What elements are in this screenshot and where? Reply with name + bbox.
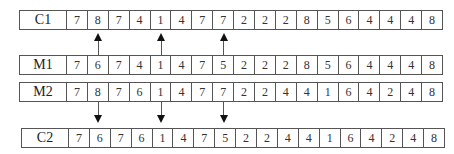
- gene-cell: 4: [171, 55, 192, 75]
- chromosome-row-m1: M1767414752228564448: [19, 55, 443, 75]
- gene-cell: 6: [341, 128, 362, 148]
- gene-cell: 7: [192, 82, 213, 102]
- gene-cell: 4: [276, 82, 297, 102]
- gene-cell: 7: [67, 10, 88, 30]
- gene-cell: 4: [403, 128, 424, 148]
- chromosome-row-m2: M2787614772244164248: [19, 82, 443, 102]
- gene-cell: 5: [215, 128, 236, 148]
- gene-cell: 4: [401, 10, 422, 30]
- gene-cell: 8: [297, 10, 318, 30]
- gene-cell: 4: [401, 55, 422, 75]
- gene-cell: 5: [213, 55, 234, 75]
- gene-cell: 8: [88, 82, 109, 102]
- gene-cell: 7: [192, 10, 213, 30]
- gene-cell: 2: [234, 10, 255, 30]
- gene-cell: 7: [213, 82, 234, 102]
- arrow-up-icon: [94, 33, 102, 41]
- gene-cell: 2: [234, 55, 255, 75]
- gene-cell: 6: [132, 128, 153, 148]
- row-label: C2: [21, 128, 69, 148]
- gene-cell: 6: [339, 82, 360, 102]
- gene-cell: 4: [171, 82, 192, 102]
- gene-cell: 2: [234, 82, 255, 102]
- gene-cell: 6: [88, 55, 109, 75]
- gene-cell: 5: [318, 55, 339, 75]
- down-arrow-line: [161, 102, 162, 116]
- gene-cell: 1: [151, 82, 172, 102]
- gene-cell: 2: [257, 128, 278, 148]
- gene-cell: 6: [90, 128, 111, 148]
- arrow-up-icon: [220, 33, 228, 41]
- gene-cell: 4: [380, 10, 401, 30]
- gene-cell: 8: [88, 10, 109, 30]
- arrow-down-icon: [157, 115, 165, 123]
- gene-cell: 7: [67, 55, 88, 75]
- gene-cell: 1: [318, 82, 339, 102]
- arrow-up-icon: [157, 33, 165, 41]
- gene-cell: 7: [69, 128, 90, 148]
- gene-cell: 4: [173, 128, 194, 148]
- gene-cell: 4: [130, 10, 151, 30]
- gene-cell: 1: [153, 128, 174, 148]
- gene-cell: 2: [255, 82, 276, 102]
- gene-cell: 2: [236, 128, 257, 148]
- down-arrow-line: [98, 102, 99, 116]
- up-arrow-line: [161, 40, 162, 55]
- gene-cell: 4: [299, 128, 320, 148]
- gene-cell: 8: [422, 10, 443, 30]
- gene-cell: 4: [359, 10, 380, 30]
- gene-cell: 2: [276, 10, 297, 30]
- gene-cell: 2: [255, 10, 276, 30]
- gene-cell: 4: [171, 10, 192, 30]
- arrow-down-icon: [94, 115, 102, 123]
- gene-cell: 1: [151, 10, 172, 30]
- gene-cell: 7: [213, 10, 234, 30]
- row-label: M2: [19, 82, 67, 102]
- gene-cell: 6: [339, 55, 360, 75]
- gene-cell: 4: [380, 55, 401, 75]
- gene-cell: 8: [424, 128, 445, 148]
- gene-cell: 4: [359, 55, 380, 75]
- gene-cell: 6: [130, 82, 151, 102]
- gene-cell: 2: [276, 55, 297, 75]
- gene-cell: 4: [297, 82, 318, 102]
- arrow-down-icon: [220, 115, 228, 123]
- gene-cell: 7: [109, 10, 130, 30]
- down-arrow-line: [223, 102, 224, 116]
- gene-cell: 1: [151, 55, 172, 75]
- gene-cell: 8: [422, 82, 443, 102]
- gene-cell: 6: [339, 10, 360, 30]
- gene-cell: 7: [111, 128, 132, 148]
- gene-cell: 7: [192, 55, 213, 75]
- gene-cell: 7: [67, 82, 88, 102]
- gene-cell: 8: [422, 55, 443, 75]
- gene-cell: 4: [359, 82, 380, 102]
- gene-cell: 4: [361, 128, 382, 148]
- gene-cell: 4: [401, 82, 422, 102]
- gene-cell: 1: [320, 128, 341, 148]
- chromosome-row-c2: C2767614752244164248: [21, 128, 445, 148]
- chromosome-row-c1: C1787414772228564448: [19, 10, 443, 30]
- gene-cell: 2: [255, 55, 276, 75]
- up-arrow-line: [223, 40, 224, 55]
- gene-cell: 8: [297, 55, 318, 75]
- gene-cell: 7: [109, 82, 130, 102]
- gene-cell: 4: [278, 128, 299, 148]
- gene-cell: 5: [318, 10, 339, 30]
- gene-cell: 2: [380, 82, 401, 102]
- gene-cell: 2: [382, 128, 403, 148]
- gene-cell: 7: [194, 128, 215, 148]
- row-label: C1: [19, 10, 67, 30]
- gene-cell: 4: [130, 55, 151, 75]
- gene-cell: 7: [109, 55, 130, 75]
- up-arrow-line: [98, 40, 99, 55]
- row-label: M1: [19, 55, 67, 75]
